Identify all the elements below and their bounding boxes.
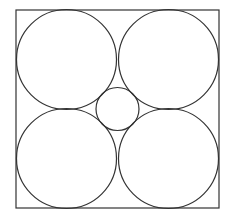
outer-square	[16, 10, 219, 208]
small-center-circle	[96, 88, 139, 131]
circles-in-square-diagram	[0, 0, 233, 218]
large-circles-group	[17, 10, 219, 209]
